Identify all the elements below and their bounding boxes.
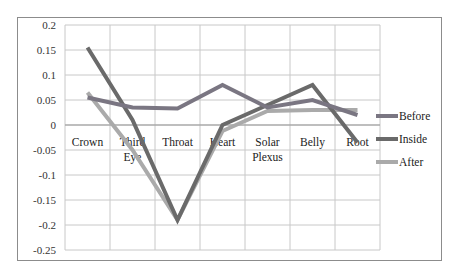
y-axis-ticks: 0.20.150.10.050-0.05-0.1-0.15-0.2-0.25 — [33, 19, 56, 256]
y-tick-label: -0.15 — [33, 194, 56, 206]
y-tick-label: 0.15 — [37, 44, 57, 56]
y-tick-label: -0.05 — [33, 144, 56, 156]
legend-label: After — [399, 156, 423, 168]
y-tick-label: -0.25 — [33, 244, 56, 256]
x-category-label: Belly — [300, 136, 325, 149]
line-chart: 0.20.150.10.050-0.05-0.1-0.15-0.2-0.25 C… — [0, 0, 458, 278]
y-tick-label: -0.1 — [39, 169, 56, 181]
x-category-label: Throat — [162, 136, 193, 148]
y-tick-label: 0.2 — [42, 19, 56, 31]
legend-label: Before — [399, 110, 430, 122]
y-tick-label: -0.2 — [39, 219, 56, 231]
y-tick-label: 0.05 — [37, 94, 57, 106]
x-category-label: Crown — [72, 136, 104, 148]
legend-label: Inside — [399, 133, 427, 145]
y-tick-label: 0.1 — [42, 69, 56, 81]
y-tick-label: 0 — [51, 119, 57, 131]
